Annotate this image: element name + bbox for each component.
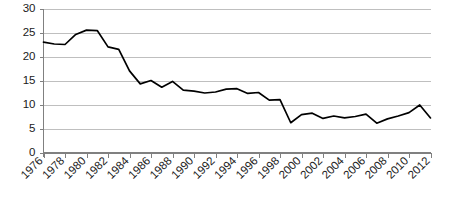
y-tick-labels: 051015202530 [23,2,36,158]
x-tick-label-1996: 1996 [233,154,260,181]
y-tick-label-25: 25 [23,26,36,38]
x-tick-label-1976: 1976 [18,154,45,181]
x-tick-label-1990: 1990 [169,154,196,181]
x-tick-label-1978: 1978 [40,154,67,181]
x-tick-label-1988: 1988 [147,154,174,181]
x-tick-label-1982: 1982 [83,154,110,181]
data-series [44,30,431,123]
x-tick-label-1998: 1998 [255,154,282,181]
gridlines [44,10,431,154]
x-tick-label-1984: 1984 [104,154,131,181]
x-tick-label-2004: 2004 [319,154,346,181]
x-tick-label-1992: 1992 [190,154,217,181]
x-tick-label-1986: 1986 [126,154,153,181]
chart-page: 051015202530 197619781980198219841986198… [0,0,451,202]
y-tick-label-15: 15 [23,74,36,86]
y-tick-label-30: 30 [23,2,36,14]
series-line-1 [44,30,431,123]
x-tick-label-2012: 2012 [405,154,432,181]
x-tick-labels: 1976197819801982198419861988199019921994… [18,154,432,181]
y-tick-label-20: 20 [23,50,36,62]
y-tick-label-10: 10 [23,98,36,110]
y-axis [40,9,44,157]
line-chart: 051015202530 197619781980198219841986198… [0,0,451,202]
x-tick-label-1980: 1980 [61,154,88,181]
x-tick-label-2000: 2000 [276,154,303,181]
x-tick-label-2008: 2008 [362,154,389,181]
x-tick-label-2002: 2002 [298,154,325,181]
y-tick-label-5: 5 [29,122,35,134]
x-tick-label-2010: 2010 [384,154,411,181]
x-tick-label-1994: 1994 [212,154,239,181]
x-tick-label-2006: 2006 [341,154,368,181]
